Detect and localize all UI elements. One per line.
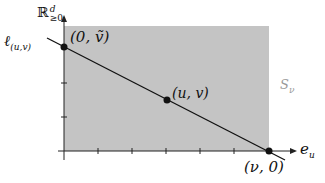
x-axis-label-base: e — [300, 140, 309, 158]
diagram-graphics — [0, 0, 325, 183]
x-axis-arrow-icon — [290, 148, 297, 154]
x-axis-label: eu — [300, 142, 315, 160]
region-label-base: S — [280, 77, 289, 92]
y-axis-label-sub: ≥0 — [50, 14, 63, 23]
point-label-nu-0: (ν, 0) — [244, 160, 284, 175]
x-axis-label-sub: u — [309, 150, 315, 160]
region-label: Sν — [280, 78, 294, 95]
line-label-sub: (u,v) — [10, 42, 31, 52]
point-label-0-vtilde: (0, ṽ) — [70, 30, 109, 45]
point-nu-0 — [266, 148, 273, 155]
diagram-canvas: ℝd≥0 ℓ(u,v) (0, ṽ) (u, v) (ν, 0) eu Sν — [0, 0, 325, 183]
region-label-sub: ν — [289, 85, 294, 95]
y-axis-label: ℝd≥0 — [37, 5, 63, 23]
line-label: ℓ(u,v) — [4, 34, 31, 52]
point-label-u-v: (u, v) — [172, 86, 209, 100]
y-axis-label-base: ℝ — [37, 4, 49, 20]
point-0-vtilde — [61, 44, 68, 51]
point-u-v — [164, 97, 171, 104]
